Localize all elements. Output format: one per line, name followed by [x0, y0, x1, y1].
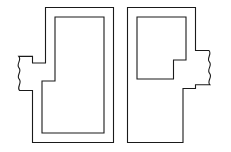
puzzle-figure-canvas: Two interlocking S-shaped jigsaw puzzle … [0, 0, 231, 152]
puzzle-drawing-svg: Two interlocking S-shaped jigsaw puzzle … [0, 0, 231, 152]
figure-background [0, 0, 231, 152]
